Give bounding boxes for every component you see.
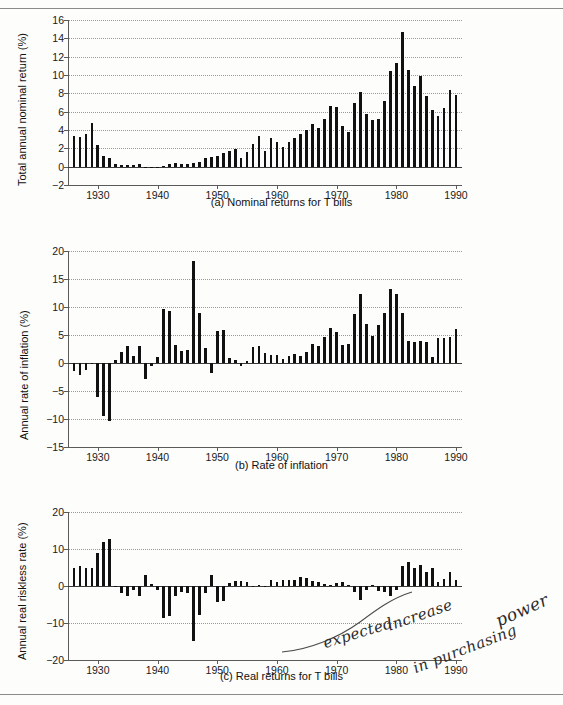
- bar: [419, 341, 422, 363]
- bar: [144, 167, 147, 168]
- bar: [329, 106, 332, 167]
- y-tick-label: −20: [46, 655, 64, 666]
- bar: [168, 586, 171, 616]
- bar: [299, 134, 302, 167]
- panel-c-y-axis-label: Annual real riskless rate (%): [16, 522, 28, 660]
- bar: [305, 130, 308, 167]
- bar: [270, 138, 273, 166]
- bar: [216, 156, 219, 167]
- bar: [144, 363, 147, 379]
- gridline: [68, 20, 462, 21]
- zero-baseline: [68, 363, 462, 364]
- bar: [198, 313, 201, 363]
- bar: [359, 92, 362, 166]
- bar: [455, 95, 458, 167]
- bar: [293, 580, 296, 586]
- zero-baseline: [68, 167, 462, 168]
- bar: [449, 337, 452, 363]
- y-tick-mark: [64, 130, 68, 131]
- bar: [246, 361, 249, 363]
- bar: [407, 562, 410, 586]
- bar: [383, 313, 386, 363]
- bar: [413, 86, 416, 167]
- bar: [377, 119, 380, 167]
- bar: [437, 582, 440, 586]
- bar: [156, 586, 159, 590]
- bar: [258, 585, 261, 586]
- bar: [210, 363, 213, 373]
- bar: [216, 331, 219, 363]
- bar: [96, 145, 99, 167]
- y-tick-label: 14: [52, 33, 64, 44]
- bar: [138, 164, 141, 167]
- bar: [150, 167, 153, 168]
- bar: [168, 311, 171, 363]
- bar: [359, 586, 362, 600]
- bar: [79, 137, 82, 166]
- bar: [264, 586, 267, 587]
- bar: [288, 142, 291, 167]
- bar: [73, 363, 76, 371]
- y-tick-mark: [64, 419, 68, 420]
- bottom-rule: [0, 694, 563, 695]
- bar: [311, 344, 314, 363]
- bar: [192, 261, 195, 363]
- bar: [186, 350, 189, 363]
- bar: [401, 313, 404, 363]
- bar: [425, 572, 428, 586]
- bar: [150, 363, 153, 366]
- bar: [120, 165, 123, 167]
- bar: [108, 158, 111, 167]
- bar: [162, 166, 165, 167]
- y-tick-mark: [64, 57, 68, 58]
- bar: [85, 568, 88, 586]
- gridline: [68, 251, 462, 252]
- bar: [311, 581, 314, 586]
- bar: [240, 363, 243, 366]
- bar: [353, 314, 356, 363]
- bar: [102, 363, 105, 416]
- y-tick-label: 4: [58, 125, 64, 136]
- bar: [120, 352, 123, 363]
- bar: [180, 351, 183, 363]
- bar: [174, 345, 177, 363]
- bar: [180, 164, 183, 167]
- bar: [425, 342, 428, 363]
- bar: [114, 360, 117, 363]
- bar: [353, 586, 356, 592]
- bar: [216, 586, 219, 602]
- bar: [120, 586, 123, 593]
- y-tick-label: 12: [52, 51, 64, 62]
- bar: [252, 144, 255, 167]
- bar: [377, 586, 380, 591]
- bar: [144, 575, 147, 586]
- bar: [276, 142, 279, 167]
- bar: [389, 586, 392, 596]
- bar: [204, 158, 207, 166]
- bar: [132, 165, 135, 167]
- bar: [425, 96, 428, 167]
- bar: [79, 363, 82, 375]
- bar: [299, 577, 302, 586]
- bar: [407, 341, 410, 363]
- bar: [222, 586, 225, 601]
- bar: [401, 566, 404, 586]
- bar: [317, 128, 320, 167]
- bar: [389, 289, 392, 363]
- bar: [222, 153, 225, 167]
- bar: [246, 152, 249, 167]
- y-tick-mark: [64, 512, 68, 513]
- bar: [443, 338, 446, 363]
- y-tick-label: 6: [58, 106, 64, 117]
- bar: [353, 103, 356, 167]
- bar: [413, 568, 416, 586]
- bar: [192, 163, 195, 167]
- y-tick-mark: [64, 148, 68, 149]
- y-tick-label: 15: [52, 274, 64, 285]
- bar: [371, 585, 374, 586]
- bar: [234, 360, 237, 363]
- bar: [162, 586, 165, 618]
- panel-b-y-axis-label: Annual rate of inflation (%): [18, 310, 30, 440]
- bar: [389, 71, 392, 166]
- y-tick-mark: [64, 335, 68, 336]
